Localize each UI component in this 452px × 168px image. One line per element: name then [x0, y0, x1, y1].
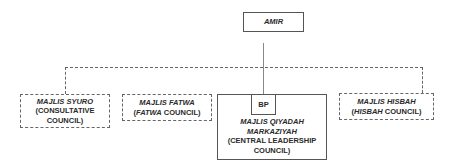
syuro-translation-1: (CONSULTATIVE: [35, 106, 94, 116]
syuro-name: MAJLIS SYURO: [37, 97, 93, 107]
fatwa-council: COUNCIL): [162, 108, 201, 117]
hisbah-name: MAJLIS HISBAH: [357, 97, 415, 107]
qiyadah-name-2: MARKAZIYAH: [247, 127, 297, 137]
syuro-drop-line: [65, 67, 66, 94]
hisbah-term: HISBAH: [354, 107, 383, 116]
hisbah-translation: (HISBAH COUNCIL): [351, 107, 421, 117]
majlis-fatwa-node: MAJLIS FATWA (FATWA COUNCIL): [122, 94, 212, 121]
qiyadah-name-1: MAJLIS QIYADAH: [240, 117, 304, 127]
advisory-bus-line: [65, 67, 423, 68]
fatwa-name: MAJLIS FATWA: [139, 98, 194, 108]
amir-to-qiyadah-line: [263, 43, 264, 95]
majlis-hisbah-node: MAJLIS HISBAH (HISBAH COUNCIL): [339, 93, 434, 120]
majlis-syuro-node: MAJLIS SYURO (CONSULTATIVE COUNCIL): [20, 94, 110, 128]
hisbah-council: COUNCIL): [383, 107, 422, 116]
bp-badge: BP: [251, 94, 276, 115]
qiyadah-text: MAJLIS QIYADAH MARKAZIYAH (CENTRAL LEADE…: [218, 117, 326, 155]
fatwa-term: FATWA: [136, 108, 162, 117]
qiyadah-translation-1: (CENTRAL LEADERSHIP: [228, 136, 317, 146]
bp-label: BP: [258, 100, 268, 110]
fatwa-translation: (FATWA COUNCIL): [134, 108, 201, 118]
hisbah-drop-line: [422, 67, 423, 93]
qiyadah-translation-2: COUNCIL): [254, 146, 291, 156]
majlis-qiyadah-node: BP MAJLIS QIYADAH MARKAZIYAH (CENTRAL LE…: [217, 94, 327, 160]
syuro-translation-2: COUNCIL): [47, 116, 84, 126]
amir-node: AMIR: [243, 12, 304, 32]
amir-label: AMIR: [264, 17, 283, 27]
